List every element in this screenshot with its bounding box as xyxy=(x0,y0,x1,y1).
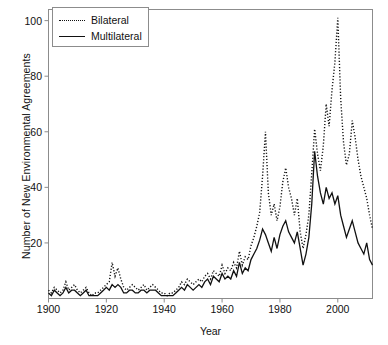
x-tick-label: 1920 xyxy=(86,303,126,315)
series-line-multilateral xyxy=(49,151,373,296)
chart-legend: Bilateral Multilateral xyxy=(52,7,149,47)
legend-item-bilateral: Bilateral xyxy=(59,12,129,28)
x-tick-label: 1980 xyxy=(260,303,300,315)
legend-swatch-solid-icon xyxy=(59,32,85,41)
x-tick-label: 1940 xyxy=(144,303,184,315)
series-line-bilateral xyxy=(49,18,373,296)
x-tick-label: 1960 xyxy=(202,303,242,315)
chart-figure: 20406080100 190019201940196019802000 Num… xyxy=(0,0,388,345)
series-layer xyxy=(49,18,373,296)
plot-frame xyxy=(49,10,373,299)
legend-label-bilateral: Bilateral xyxy=(91,14,129,26)
y-tick-label: 100 xyxy=(18,15,42,27)
y-axis-title: Number of New Environmental Agreements xyxy=(20,26,32,286)
legend-item-multilateral: Multilateral xyxy=(59,28,142,44)
axis-tick-marks xyxy=(45,21,338,303)
x-tick-label: 1900 xyxy=(29,303,69,315)
legend-swatch-dotted-icon xyxy=(59,16,85,25)
legend-label-multilateral: Multilateral xyxy=(91,30,142,42)
chart-canvas xyxy=(0,0,388,345)
x-axis-title: Year xyxy=(48,325,373,337)
x-tick-label: 2000 xyxy=(318,303,358,315)
